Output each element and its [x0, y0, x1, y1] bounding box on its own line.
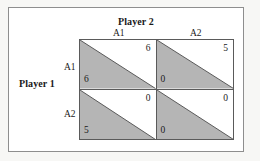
- matrix-cell-a2-a2: 0 0: [157, 90, 234, 140]
- column-player-payoff-a2-a2: 0: [223, 94, 228, 104]
- column-header-a2: A2: [190, 29, 202, 39]
- row-player-payoff-a2-a2: 0: [161, 126, 166, 136]
- cell-diagonal-split-a1-a1: [80, 40, 156, 89]
- row-header-a2: A2: [64, 110, 76, 120]
- matrix-cell-a1-a1: 6 6: [80, 40, 157, 90]
- matrix-cell-a1-a2: 5 0: [157, 40, 234, 90]
- row-player-payoff-a2-a1: 5: [84, 126, 89, 136]
- payoff-matrix-grid: 6 6 5 0 0 5 0 0: [79, 39, 234, 140]
- cell-diagonal-split-a2-a2: [157, 90, 234, 140]
- matrix-cell-a2-a1: 0 5: [80, 90, 157, 140]
- row-header-a1: A1: [64, 63, 76, 73]
- row-player-title: Player 1: [19, 79, 55, 89]
- cell-diagonal-split-a2-a1: [80, 90, 156, 140]
- column-player-title: Player 2: [118, 17, 154, 27]
- row-player-payoff-a1-a2: 0: [161, 75, 166, 85]
- column-header-a1: A1: [113, 29, 125, 39]
- cell-diagonal-split-a1-a2: [157, 40, 234, 89]
- column-player-payoff-a1-a2: 5: [223, 44, 228, 54]
- column-player-payoff-a2-a1: 0: [146, 94, 151, 104]
- payoff-matrix-figure: Player 2 Player 1 A1 A2 A1 A2 6 6 5 0: [0, 0, 260, 161]
- row-player-payoff-a1-a1: 6: [84, 75, 89, 85]
- column-player-payoff-a1-a1: 6: [146, 44, 151, 54]
